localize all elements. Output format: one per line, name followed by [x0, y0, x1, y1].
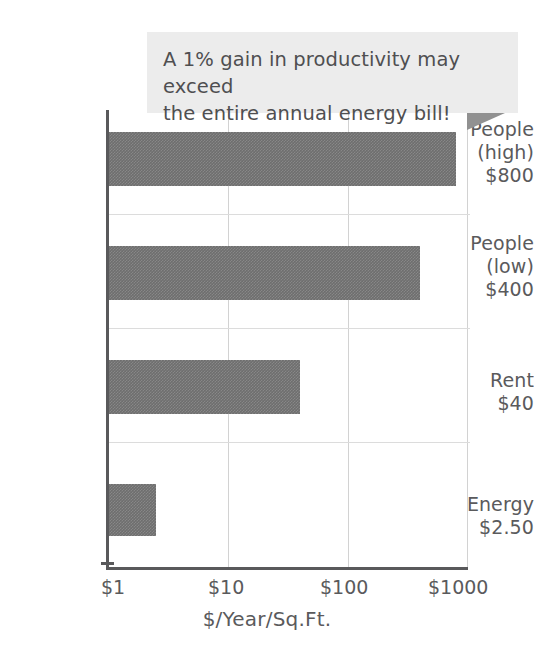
x-tick-label-1000: $1000	[428, 576, 488, 598]
callout-text-line: the entire annual energy bill!	[163, 100, 502, 127]
callout-text: A 1% gain in productivity may exceed the…	[163, 46, 502, 127]
bar-people-high	[108, 132, 456, 186]
category-label-line: $400	[436, 278, 534, 301]
gridline-horizontal	[108, 328, 470, 329]
category-label-rent: Rent $40	[436, 369, 534, 415]
callout-tail-icon	[467, 113, 505, 130]
category-label-people-low: People (low) $400	[436, 232, 534, 301]
x-tick-label-1: $1	[101, 576, 125, 598]
x-tick-label-100: $100	[320, 576, 368, 598]
x-axis-title: $/Year/Sq.Ft.	[0, 607, 534, 631]
x-axis-line	[106, 567, 468, 570]
category-label-line: People	[436, 232, 534, 255]
y-axis-line	[106, 110, 109, 570]
category-label-line: $2.50	[436, 516, 534, 539]
bar-energy	[108, 484, 156, 536]
gridline-horizontal	[108, 442, 470, 443]
category-label-energy: Energy $2.50	[436, 493, 534, 539]
category-label-line: $800	[436, 164, 534, 187]
callout-box: A 1% gain in productivity may exceed the…	[147, 32, 518, 113]
plot-area	[108, 112, 468, 568]
category-label-line: (high)	[436, 141, 534, 164]
category-label-line: Energy	[436, 493, 534, 516]
bar-people-low	[108, 246, 420, 300]
bar-rent	[108, 360, 300, 414]
category-label-line: Rent	[436, 369, 534, 392]
callout-text-line: A 1% gain in productivity may exceed	[163, 46, 502, 100]
bar-chart-figure: People (high) $800 People (low) $400 Ren…	[0, 0, 534, 660]
x-axis-origin-tick	[101, 562, 114, 565]
category-label-line: $40	[436, 392, 534, 415]
gridline-horizontal	[108, 214, 470, 215]
category-label-line: (low)	[436, 255, 534, 278]
x-tick-label-10: $10	[208, 576, 244, 598]
